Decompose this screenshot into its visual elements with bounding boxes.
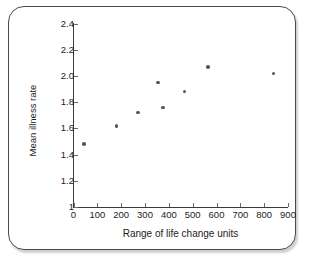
x-tick-mark <box>74 203 75 207</box>
x-axis-line <box>73 207 288 208</box>
y-tick-mark <box>74 24 78 25</box>
y-tick-mark <box>74 128 78 129</box>
data-point <box>183 90 187 94</box>
data-point <box>206 65 210 69</box>
y-tick-mark <box>74 102 78 103</box>
data-point <box>82 142 86 146</box>
scatter-plot: 11.21.41.61.82.02.22.4 01002003004005006… <box>0 0 312 264</box>
y-tick-label: 2.4 <box>42 19 74 29</box>
y-tick-mark <box>74 207 78 208</box>
x-tick-mark <box>240 203 241 207</box>
y-tick-label: 1.6 <box>42 123 74 133</box>
data-point <box>115 124 119 128</box>
y-tick-label: 2.0 <box>42 71 74 81</box>
x-tick-mark <box>288 203 289 207</box>
y-tick-mark <box>74 76 78 77</box>
data-point <box>161 106 165 110</box>
y-tick-label: 1.8 <box>42 97 74 107</box>
x-axis-title: Range of life change units <box>73 228 288 239</box>
y-tick-label: 1.4 <box>42 150 74 160</box>
x-tick-mark <box>169 203 170 207</box>
x-tick-mark <box>97 203 98 207</box>
x-tick-label: 900 <box>273 210 303 220</box>
y-tick-label: 2.2 <box>42 45 74 55</box>
x-tick-mark <box>121 203 122 207</box>
y-tick-mark <box>74 155 78 156</box>
y-tick-mark <box>74 181 78 182</box>
data-point <box>136 111 140 115</box>
data-point <box>156 81 160 85</box>
y-tick-label: 1.2 <box>42 176 74 186</box>
x-tick-mark <box>264 203 265 207</box>
y-axis-title: Mean illness rate <box>27 61 38 181</box>
x-tick-mark <box>217 203 218 207</box>
y-tick-mark <box>74 50 78 51</box>
x-tick-mark <box>145 203 146 207</box>
data-point <box>272 72 276 76</box>
x-tick-mark <box>193 203 194 207</box>
